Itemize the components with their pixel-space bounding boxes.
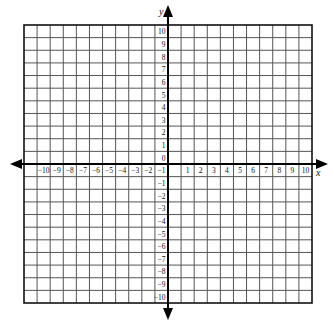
y-axis-label: y (158, 6, 164, 17)
x-tick-label: 6 (251, 166, 255, 175)
y-tick-label: 4 (162, 103, 166, 112)
x-tick-label: 7 (264, 166, 268, 175)
y-tick-label: −7 (158, 255, 166, 264)
y-tick-label: −6 (158, 242, 166, 251)
x-tick-label: −9 (53, 166, 61, 175)
coordinate-plane: −10−9−8−7−6−5−4−3−2−112345678910 1098765… (0, 0, 334, 328)
x-tick-label: 4 (225, 166, 229, 175)
arrow-left-icon (10, 159, 22, 169)
y-tick-label: 2 (162, 128, 166, 137)
x-tick-label: −10 (38, 166, 50, 175)
y-tick-label: 0 (162, 154, 166, 163)
x-tick-label: 5 (238, 166, 242, 175)
y-tick-label: −4 (158, 217, 166, 226)
y-tick-label: −2 (158, 192, 166, 201)
y-tick-label: −10 (154, 293, 166, 302)
x-tick-label: −7 (79, 166, 87, 175)
x-tick-label: −2 (144, 166, 152, 175)
y-tick-label: 1 (162, 141, 166, 150)
x-tick-label: −8 (66, 166, 74, 175)
x-tick-label: −3 (131, 166, 139, 175)
y-tick-label: −3 (158, 204, 166, 213)
x-axis-label: x (315, 167, 321, 178)
x-tick-label: 2 (199, 166, 203, 175)
y-tick-label: 5 (162, 91, 166, 100)
axes (10, 5, 328, 320)
y-tick-label: −8 (158, 267, 166, 276)
x-tick-label: −5 (105, 166, 113, 175)
x-tick-label: −4 (118, 166, 126, 175)
y-tick-label: 6 (162, 78, 166, 87)
y-tick-label: −5 (158, 230, 166, 239)
x-tick-label: −1 (157, 166, 165, 175)
arrow-up-icon (163, 5, 173, 17)
x-tick-label: 1 (186, 166, 190, 175)
x-tick-label: 9 (290, 166, 294, 175)
y-tick-label: 10 (158, 27, 166, 36)
x-tick-label: 8 (277, 166, 281, 175)
x-tick-label: 10 (302, 166, 310, 175)
y-tick-label: −9 (158, 280, 166, 289)
y-tick-label: 3 (162, 116, 166, 125)
x-tick-label: 3 (212, 166, 216, 175)
x-tick-labels: −10−9−8−7−6−5−4−3−2−112345678910 (38, 166, 310, 175)
x-tick-label: −6 (92, 166, 100, 175)
y-tick-label: 7 (162, 65, 166, 74)
y-tick-label: −1 (158, 179, 166, 188)
y-tick-label: 8 (162, 53, 166, 62)
y-tick-label: 9 (162, 40, 166, 49)
arrow-down-icon (163, 308, 173, 320)
